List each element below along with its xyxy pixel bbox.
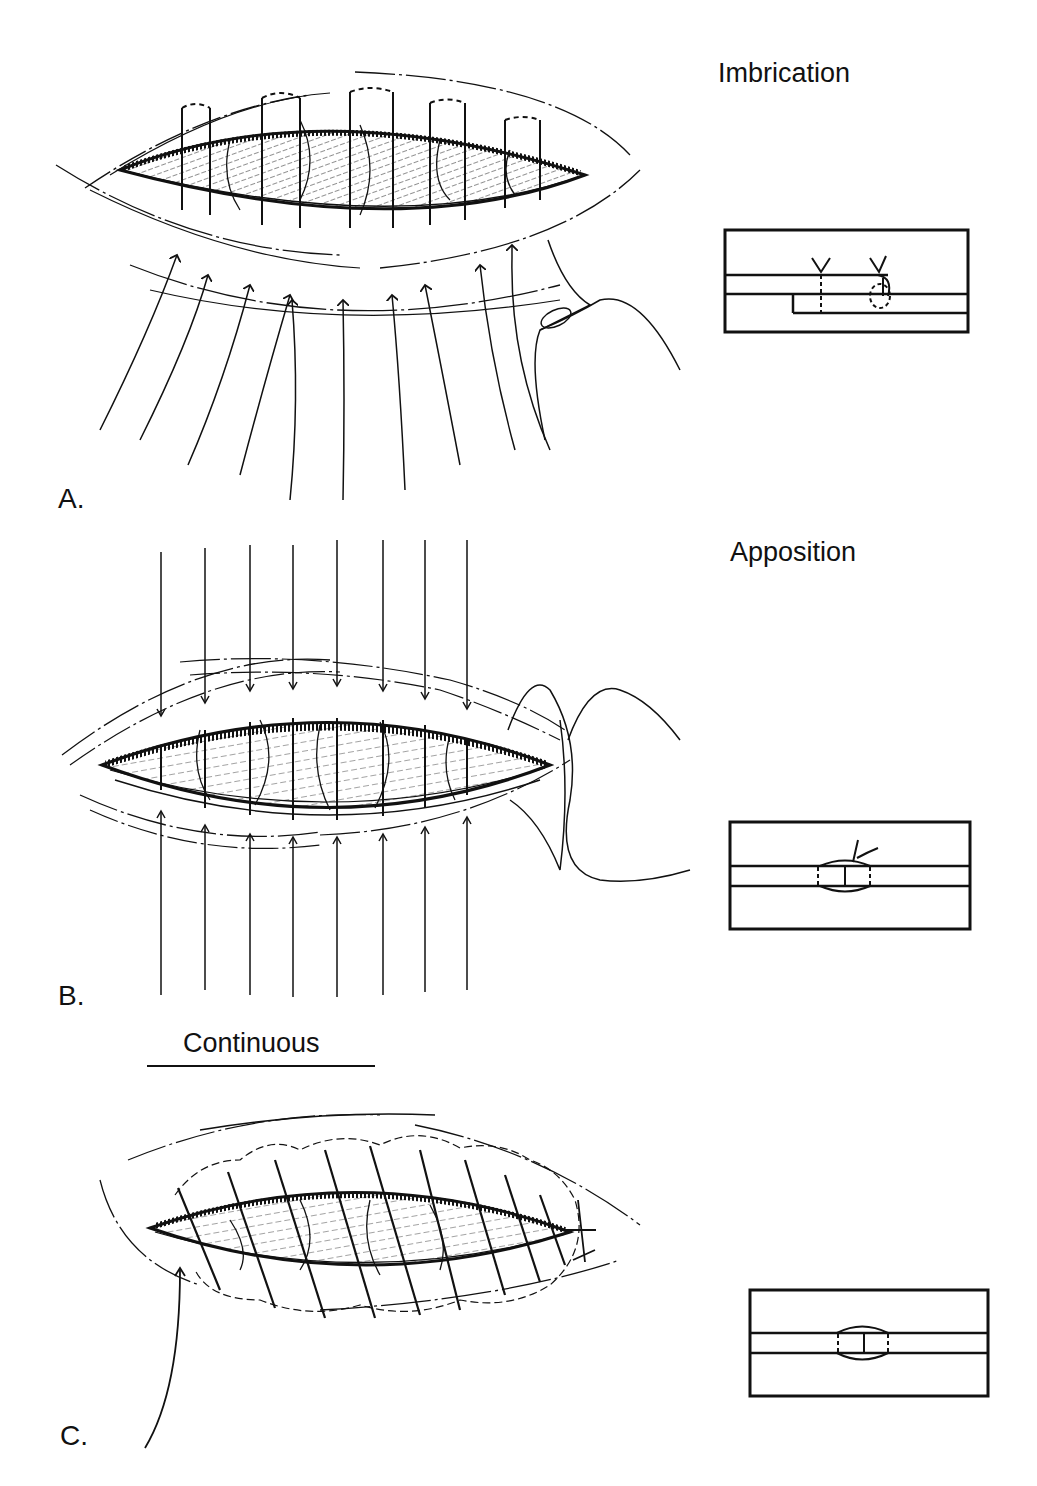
panel-b-upper-strands	[157, 540, 471, 716]
panel-a-wound	[56, 72, 640, 315]
apposition-title: Apposition	[730, 537, 856, 568]
continuous-underline	[147, 1065, 375, 1067]
panel-c-tail-strand	[145, 1268, 185, 1448]
imbrication-title: Imbrication	[718, 58, 850, 89]
panel-a-suture-strands	[100, 240, 680, 500]
panel-b-label: B.	[58, 980, 84, 1012]
inset-apposition-cross-section	[730, 822, 970, 929]
inset-continuous-cross-section	[750, 1290, 988, 1396]
suture-diagram	[0, 0, 1037, 1486]
inset-imbrication-cross-section	[725, 230, 968, 332]
panel-a-label: A.	[58, 483, 84, 515]
panel-c-label: C.	[60, 1420, 88, 1452]
continuous-title: Continuous	[183, 1028, 320, 1059]
panel-b-wound	[62, 659, 570, 849]
panel-c-wound	[100, 1114, 640, 1318]
